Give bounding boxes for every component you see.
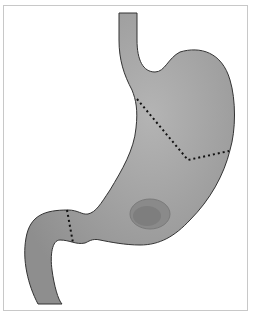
stomach-illustration: [0, 0, 254, 319]
stomach-shape: [25, 13, 235, 304]
